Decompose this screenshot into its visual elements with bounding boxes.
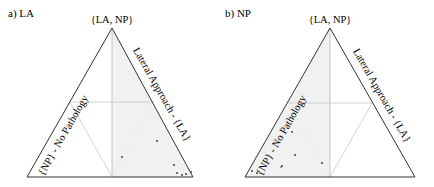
vertex-top-label: {LA, NP} <box>91 14 134 25</box>
right-edge-label: Lateral Approach - {LA} <box>351 47 413 145</box>
panel-a: a) LA {LA, NP} {NP} - No Pathology Later… <box>8 7 193 177</box>
panel-title: a) LA <box>8 7 34 20</box>
ternary-figure: a) LA {LA, NP} {NP} - No Pathology Later… <box>0 0 434 187</box>
vertex-top-label: {LA, NP} <box>309 14 352 25</box>
left-edge-label: {NP} - No Pathology <box>36 93 91 178</box>
panel-title: b) NP <box>225 7 251 20</box>
panel-b: b) NP {LA, NP} {NP} - No Pathology Later… <box>225 7 415 177</box>
grid-diagonal-right <box>330 103 372 177</box>
